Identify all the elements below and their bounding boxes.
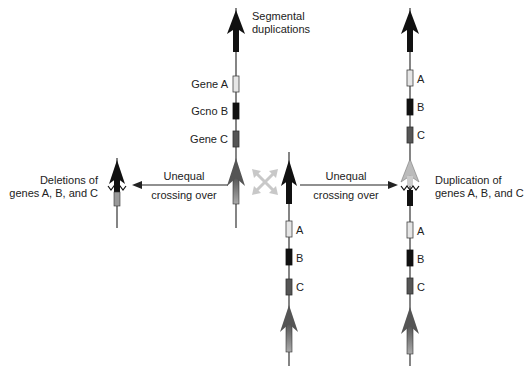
duplication-chromosome — [401, 8, 419, 366]
gene-c-box — [407, 127, 413, 143]
left-arrow-label: Unequal — [140, 170, 228, 183]
gene-b-label: B — [417, 101, 424, 114]
gene-a-box — [286, 221, 292, 237]
top-chromosome — [227, 8, 245, 228]
gene-c-box — [407, 278, 413, 294]
gene-b-box — [407, 250, 413, 266]
gene-c-label: C — [417, 281, 425, 294]
gene-b-box — [407, 99, 413, 115]
segmental-duplications-label: Segmental duplications — [252, 10, 332, 36]
left-arrow-line1: Unequal — [140, 170, 228, 183]
right-arrow-line2: crossing over — [300, 189, 392, 202]
right-arrow-label: Unequal — [300, 170, 392, 183]
gene-b-label: B — [296, 252, 303, 265]
gene-c-label: Gene C — [178, 133, 228, 146]
gene-a-label: A — [296, 224, 303, 237]
gene-c-label: C — [417, 129, 425, 142]
gene-a-box — [407, 222, 413, 238]
gene-a-label: A — [417, 225, 424, 238]
gene-a-box — [233, 76, 239, 92]
left-arrow-line2: crossing over — [140, 189, 228, 202]
gene-a-label: Gene A — [178, 78, 228, 91]
crossover-x-icon — [252, 169, 278, 195]
gene-b-label: B — [417, 253, 424, 266]
gene-c-label: C — [296, 281, 304, 294]
right-arrow-label-2: crossing over — [300, 189, 392, 202]
duplication-line2: genes A, B, and C — [435, 187, 524, 200]
gene-a-label: A — [417, 73, 424, 86]
duplication-line1: Duplication of — [435, 174, 524, 187]
deletion-line2: genes A, B, and C — [2, 187, 98, 200]
gene-c-box — [286, 279, 292, 295]
left-arrow-label-2: crossing over — [140, 189, 228, 202]
gene-b-box — [286, 249, 292, 265]
right-arrow-line1: Unequal — [300, 170, 392, 183]
gene-a-box — [407, 70, 413, 86]
gene-c-box — [233, 131, 239, 147]
gene-b-box — [233, 103, 239, 119]
deletion-result-label: Deletions of genes A, B, and C — [2, 174, 98, 200]
duplication-result-label: Duplication of genes A, B, and C — [435, 174, 524, 200]
deletion-line1: Deletions of — [2, 174, 98, 187]
gene-b-label: Gcno B — [178, 105, 228, 118]
deletion-chromosome — [108, 158, 126, 228]
